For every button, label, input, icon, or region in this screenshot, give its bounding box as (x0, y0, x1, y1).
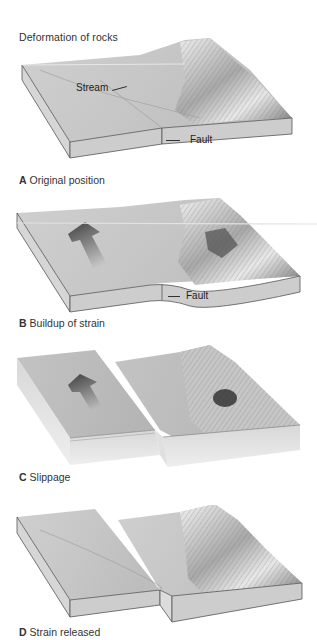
block-diagram-b (0, 195, 317, 315)
caption-letter-b: B (19, 317, 27, 329)
strain-zone (213, 389, 237, 407)
caption-d: DStrain released (19, 626, 100, 638)
block-diagram-d (0, 505, 317, 625)
caption-letter-c: C (19, 471, 27, 483)
caption-letter-d: D (19, 626, 27, 638)
fault-side-face (160, 590, 172, 622)
caption-text-b: Buildup of strain (30, 317, 105, 329)
stream-label: Stream (76, 82, 108, 93)
fault-leader-a (166, 140, 180, 141)
caption-text-a: Original position (30, 174, 105, 186)
caption-a: AOriginal position (19, 174, 105, 186)
block-diagram-c (0, 340, 317, 470)
fault-label-b: Fault (186, 290, 208, 301)
block-diagram-a (0, 30, 317, 160)
caption-text-c: Slippage (30, 471, 71, 483)
caption-text-d: Strain released (30, 626, 101, 638)
caption-b: BBuildup of strain (19, 317, 105, 329)
fault-leader-b (168, 296, 180, 297)
fault-label-a: Fault (190, 134, 212, 145)
caption-letter-a: A (19, 174, 27, 186)
caption-c: CSlippage (19, 471, 70, 483)
